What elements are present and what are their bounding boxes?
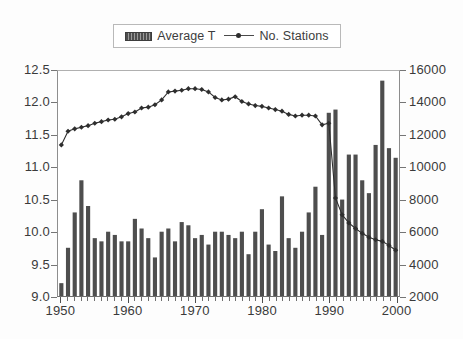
x-axis-tick-1980 bbox=[262, 297, 263, 303]
bar-2000 bbox=[394, 158, 398, 296]
bar-1972 bbox=[206, 245, 210, 296]
x-axis-tick-1975 bbox=[229, 297, 230, 301]
bar-1971 bbox=[200, 235, 204, 296]
line-marker-1968 bbox=[179, 88, 184, 93]
x-axis-tick-1967 bbox=[175, 297, 176, 301]
bar-1967 bbox=[173, 241, 177, 296]
bar-1957 bbox=[106, 232, 110, 296]
line-marker-1959 bbox=[119, 114, 124, 119]
bar-1952 bbox=[73, 212, 77, 296]
x-axis-label-1960: 1960 bbox=[105, 303, 151, 318]
x-axis-tick-1978 bbox=[249, 297, 250, 301]
line-marker-1958 bbox=[112, 117, 117, 122]
x-axis-tick-1963 bbox=[148, 297, 149, 301]
bar-swatch-icon bbox=[125, 32, 152, 41]
legend-entry-no-stations: No. Stations bbox=[224, 29, 328, 43]
x-axis-tick-1977 bbox=[242, 297, 243, 301]
line-marker-1984 bbox=[286, 112, 291, 117]
x-axis-tick-1971 bbox=[202, 297, 203, 301]
bar-1969 bbox=[186, 225, 190, 296]
x-axis-tick-1979 bbox=[255, 297, 256, 301]
x-axis-tick-1955 bbox=[94, 297, 95, 301]
y-axis-label-12.0: 12.0 bbox=[6, 94, 50, 109]
y2-axis-tick-10000 bbox=[400, 167, 406, 168]
line-marker-1983 bbox=[279, 109, 284, 114]
bar-1983 bbox=[280, 196, 284, 296]
y2-axis-tick-2000 bbox=[400, 297, 406, 298]
y2-axis-label-8000: 8000 bbox=[409, 192, 439, 207]
x-axis-tick-1968 bbox=[181, 297, 182, 301]
bar-1959 bbox=[119, 241, 123, 296]
x-axis-tick-1986 bbox=[302, 297, 303, 301]
y-axis-tick-11.5 bbox=[51, 135, 57, 136]
x-axis-tick-1964 bbox=[155, 297, 156, 301]
bar-1960 bbox=[126, 241, 130, 296]
y-axis-tick-12.0 bbox=[51, 102, 57, 103]
x-axis-tick-1965 bbox=[161, 297, 162, 301]
chart-canvas bbox=[58, 71, 399, 296]
bar-1988 bbox=[313, 187, 317, 296]
x-axis-tick-1960 bbox=[128, 297, 129, 303]
bar-1981 bbox=[267, 245, 271, 296]
line-marker-1975 bbox=[226, 97, 231, 102]
x-axis-tick-1950 bbox=[60, 297, 61, 303]
x-axis-tick-1995 bbox=[363, 297, 364, 301]
bar-1996 bbox=[367, 193, 371, 296]
x-axis-tick-1988 bbox=[316, 297, 317, 301]
x-axis-tick-2000 bbox=[397, 297, 398, 303]
line-marker-1970 bbox=[192, 86, 197, 91]
bar-1970 bbox=[193, 238, 197, 296]
line-marker-1962 bbox=[139, 105, 144, 110]
x-axis-tick-1972 bbox=[208, 297, 209, 301]
x-axis-tick-1973 bbox=[215, 297, 216, 301]
x-axis-tick-1976 bbox=[235, 297, 236, 301]
line-marker-1978 bbox=[246, 101, 251, 106]
line-marker-1956 bbox=[99, 119, 104, 124]
line-marker-1986 bbox=[299, 113, 304, 118]
y-axis-label-10.0: 10.0 bbox=[6, 224, 50, 239]
y-axis-label-9.0: 9.0 bbox=[6, 289, 50, 304]
bar-1966 bbox=[166, 229, 170, 297]
bar-1956 bbox=[99, 241, 103, 296]
bar-1954 bbox=[86, 206, 90, 296]
x-axis-label-1980: 1980 bbox=[239, 303, 285, 318]
x-axis-label-1950: 1950 bbox=[37, 303, 83, 318]
line-marker-1974 bbox=[219, 97, 224, 102]
y2-axis-label-10000: 10000 bbox=[409, 159, 446, 174]
y2-axis-tick-16000 bbox=[400, 70, 406, 71]
x-axis-tick-1984 bbox=[289, 297, 290, 301]
bar-1976 bbox=[233, 238, 237, 296]
y2-axis-tick-4000 bbox=[400, 265, 406, 266]
x-axis-tick-1996 bbox=[370, 297, 371, 301]
y2-axis-label-14000: 14000 bbox=[409, 94, 446, 109]
y2-axis-label-4000: 4000 bbox=[409, 257, 439, 272]
x-axis-label-2000: 2000 bbox=[374, 303, 420, 318]
y-axis-label-11.0: 11.0 bbox=[6, 159, 50, 174]
line-marker-1980 bbox=[259, 104, 264, 109]
line-marker-1982 bbox=[273, 107, 278, 112]
line-marker-1967 bbox=[172, 89, 177, 94]
y-axis-tick-12.5 bbox=[51, 70, 57, 71]
bar-1973 bbox=[213, 232, 217, 296]
bar-1963 bbox=[146, 238, 150, 296]
legend-label-no-stations: No. Stations bbox=[259, 29, 328, 43]
x-axis-tick-1998 bbox=[383, 297, 384, 301]
x-axis-tick-1999 bbox=[390, 297, 391, 301]
bar-1979 bbox=[253, 232, 257, 296]
x-axis-tick-1969 bbox=[188, 297, 189, 301]
x-axis-tick-1987 bbox=[309, 297, 310, 301]
line-marker-1950 bbox=[59, 142, 64, 147]
y-axis-label-11.5: 11.5 bbox=[6, 127, 50, 142]
line-marker-1971 bbox=[199, 87, 204, 92]
bar-1950 bbox=[59, 283, 63, 296]
legend-label-average-t: Average T bbox=[157, 29, 215, 43]
line-marker-1961 bbox=[132, 109, 137, 114]
bar-1964 bbox=[153, 257, 157, 296]
y2-axis-tick-12000 bbox=[400, 135, 406, 136]
y-axis-tick-10.5 bbox=[51, 200, 57, 201]
x-axis-tick-1956 bbox=[101, 297, 102, 301]
bar-1995 bbox=[360, 180, 364, 296]
x-axis-tick-1957 bbox=[107, 297, 108, 301]
bar-1997 bbox=[374, 145, 378, 296]
line-marker-swatch-icon bbox=[224, 31, 254, 41]
